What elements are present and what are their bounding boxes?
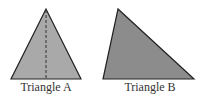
triangle-a (11, 9, 81, 79)
triangle-b-label: Triangle B (124, 80, 175, 95)
triangle-b (103, 9, 194, 79)
triangle-a-label: Triangle A (20, 80, 71, 95)
triangle-b-shape (103, 9, 194, 79)
triangle-diagram: Triangle A Triangle B (0, 0, 206, 98)
triangle-a-shape (11, 9, 81, 79)
